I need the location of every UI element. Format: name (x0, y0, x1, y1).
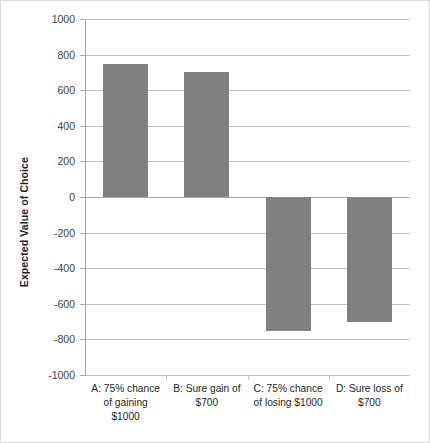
y-axis-tick-label: 400 (11, 120, 75, 132)
x-axis-tick-mark (166, 375, 167, 380)
y-axis-tick-mark (80, 55, 85, 56)
x-axis-category-label-line: $1000 (86, 410, 165, 424)
x-axis-category-label-line: $700 (167, 396, 246, 410)
x-axis-category-label: C: 75% chanceof losing $1000 (248, 382, 329, 424)
bar (266, 197, 311, 331)
x-axis-category-label: D: Sure loss of$700 (329, 382, 410, 424)
y-axis-tick-label: 200 (11, 155, 75, 167)
y-axis-tick-label: -1000 (11, 369, 75, 381)
x-axis-category-label: A: 75% chanceof gaining$1000 (85, 382, 166, 424)
x-axis-category-label: B: Sure gain of$700 (166, 382, 247, 424)
y-axis-tick-label: 0 (11, 191, 75, 203)
y-axis-tick-label: -800 (11, 333, 75, 345)
y-axis-tick-mark (80, 161, 85, 162)
y-axis-tick-mark (80, 268, 85, 269)
y-axis-tick-mark (80, 90, 85, 91)
bar (347, 197, 392, 322)
x-axis-tick-mark (248, 375, 249, 380)
x-axis-category-labels: A: 75% chanceof gaining$1000B: Sure gain… (85, 382, 410, 424)
y-axis-tick-mark (80, 339, 85, 340)
gridline (85, 339, 410, 340)
y-axis-tick-mark (80, 197, 85, 198)
y-axis-tick-labels: 10008006004002000-200-400-600-800-1000 (9, 19, 75, 375)
chart-figure: Expected Value of Choice 100080060040020… (0, 0, 430, 443)
y-axis-tick-label: 800 (11, 49, 75, 61)
x-axis-category-label-line: of losing $1000 (249, 396, 328, 410)
gridline (85, 55, 410, 56)
bar (103, 64, 148, 198)
y-axis-tick-label: 600 (11, 84, 75, 96)
y-axis-tick-mark (80, 233, 85, 234)
gridline (85, 19, 410, 20)
plot-area (85, 19, 410, 375)
y-axis-tick-label: -600 (11, 298, 75, 310)
y-axis-tick-mark (80, 19, 85, 20)
x-axis-category-label-line: of gaining (86, 396, 165, 410)
bar (184, 72, 229, 197)
x-axis-category-label-line: $700 (330, 396, 409, 410)
x-axis-category-label-line: B: Sure gain of (167, 382, 246, 396)
x-axis-category-label-line: A: 75% chance (86, 382, 165, 396)
y-axis-tick-label: 1000 (11, 13, 75, 25)
x-axis-category-label-line: D: Sure loss of (330, 382, 409, 396)
y-axis-tick-mark (80, 126, 85, 127)
y-axis-tick-label: -400 (11, 262, 75, 274)
x-axis-category-label-line: C: 75% chance (249, 382, 328, 396)
y-axis-tick-mark (80, 304, 85, 305)
x-axis-tick-mark (329, 375, 330, 380)
y-axis-tick-label: -200 (11, 227, 75, 239)
y-axis-tick-mark (80, 375, 85, 376)
